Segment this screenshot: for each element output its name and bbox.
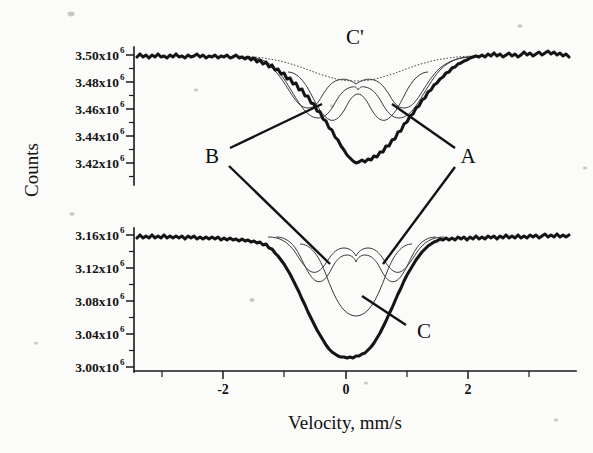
- moessbauer-figure: 3.50x10 6 3.48x10 6 3.46x10 6 3.44x10 6 …: [0, 0, 593, 453]
- lower-ytick-4-exp: 6: [120, 357, 125, 367]
- lower-spectrum-panel: 3.16x10 6 3.12x10 6 3.08x10 6 3.04x10 6 …: [75, 225, 569, 375]
- upper-ytick-4-exp: 6: [120, 153, 125, 163]
- lower-ytick-2: 3.08x10: [75, 294, 119, 309]
- upper-ytick-4: 3.42x10: [75, 156, 119, 171]
- upper-ytick-2: 3.46x10: [75, 102, 119, 117]
- leader-b-to-upper: [230, 104, 322, 148]
- figure-canvas: 3.50x10 6 3.48x10 6 3.46x10 6 3.44x10 6 …: [0, 0, 593, 453]
- component-curve-c-lower: [300, 244, 412, 316]
- annotation-label-c: C: [417, 319, 431, 343]
- lower-ytick-3-exp: 6: [120, 324, 125, 334]
- upper-y-ticks: [126, 55, 134, 177]
- lower-ytick-0: 3.16x10: [75, 228, 119, 243]
- upper-experimental-trace: [137, 51, 569, 163]
- upper-ytick-3: 3.44x10: [75, 129, 119, 144]
- lower-ytick-2-exp: 6: [120, 291, 125, 301]
- lower-ytick-4: 3.00x10: [75, 360, 119, 375]
- xtick-label-2: 2: [465, 382, 472, 397]
- lower-ytick-0-exp: 6: [120, 225, 125, 235]
- lower-y-tick-labels: 3.16x10 6 3.12x10 6 3.08x10 6 3.04x10 6 …: [75, 225, 125, 375]
- annotation-leaders: [229, 104, 455, 325]
- y-axis-title: Counts: [21, 143, 42, 197]
- upper-ytick-0: 3.50x10: [75, 48, 119, 63]
- upper-spectrum-panel: 3.50x10 6 3.48x10 6 3.46x10 6 3.44x10 6 …: [75, 45, 569, 185]
- x-axis-title: Velocity, mm/s: [288, 412, 402, 433]
- x-axis: -2 0 2 Velocity, mm/s: [134, 371, 576, 433]
- x-ticks: [162, 371, 529, 379]
- lower-ytick-3: 3.04x10: [75, 327, 119, 342]
- upper-ytick-1: 3.48x10: [75, 75, 119, 90]
- upper-ytick-1-exp: 6: [120, 72, 125, 82]
- component-curve-b-upper: [246, 57, 470, 118]
- annotation-label-c-prime: C': [346, 25, 364, 49]
- leader-c-to-component: [362, 296, 406, 325]
- lower-ytick-1-exp: 6: [120, 258, 125, 268]
- xtick-label-neg2: -2: [217, 382, 229, 397]
- lower-ytick-1: 3.12x10: [75, 261, 119, 276]
- component-curve-a-lower: [268, 237, 444, 272]
- leader-b-to-lower: [229, 166, 330, 264]
- upper-ytick-3-exp: 6: [120, 126, 125, 136]
- upper-ytick-2-exp: 6: [120, 99, 125, 109]
- upper-y-tick-labels: 3.50x10 6 3.48x10 6 3.46x10 6 3.44x10 6 …: [75, 45, 125, 171]
- xtick-label-0: 0: [343, 382, 350, 397]
- annotation-label-b: B: [205, 144, 219, 168]
- lower-experimental-trace: [137, 234, 569, 358]
- lower-y-ticks: [126, 235, 134, 367]
- upper-ytick-0-exp: 6: [120, 45, 125, 55]
- leader-a-to-upper: [392, 104, 455, 148]
- annotation-label-a: A: [460, 144, 476, 168]
